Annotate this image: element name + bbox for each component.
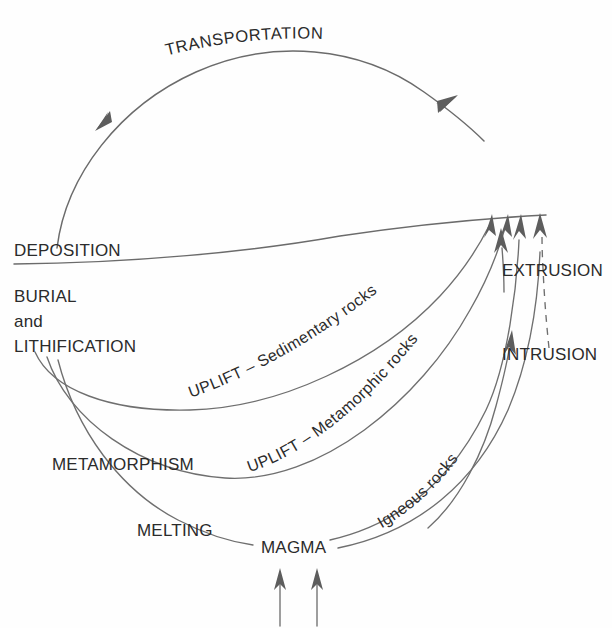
label-metamorphism: METAMORPHISM (52, 455, 194, 474)
label-magma: MAGMA (261, 538, 327, 557)
igneous-extrusion-arrowhead (513, 214, 526, 240)
intrusion-dashed-line (542, 234, 549, 348)
label-deposition: DEPOSITION (14, 241, 121, 260)
rock-cycle-diagram-canvas: TRANSPORTATION DEPOSITION BURIAL and LIT… (0, 0, 612, 628)
label-transportation: TRANSPORTATION (163, 23, 324, 58)
label-melting: MELTING (137, 521, 213, 540)
transportation-arc (57, 51, 484, 248)
label-and: and (14, 312, 43, 331)
label-extrusion: EXTRUSION (502, 261, 603, 280)
label-intrusion: INTRUSION (502, 345, 597, 364)
rock-cycle-svg: TRANSPORTATION DEPOSITION BURIAL and LIT… (0, 0, 612, 628)
label-burial: BURIAL (14, 287, 77, 306)
label-igneous-rocks: Igneous rocks (374, 450, 460, 531)
uplift-sedimentary-arrowhead (484, 214, 496, 238)
label-uplift-sedimentary: UPLIFT – Sedimentary rocks (186, 281, 380, 401)
extrusion-arrow-group (494, 228, 508, 292)
transportation-arc-group (57, 51, 484, 248)
intrusion-dashed-group (533, 213, 549, 348)
label-lithification: LITHIFICATION (14, 337, 136, 356)
extrusion-arrowhead (494, 228, 508, 253)
transportation-arrowhead-left-fill (95, 111, 112, 131)
heat-arrows-group (274, 568, 323, 626)
intrusion-dashed-arrowhead (533, 213, 547, 239)
